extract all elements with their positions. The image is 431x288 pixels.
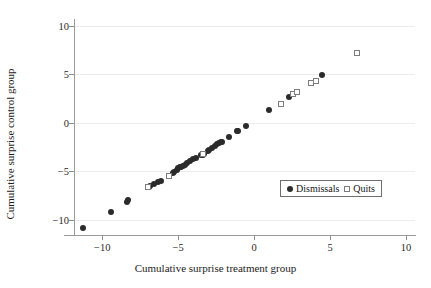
chart-figure: −10−50510 −10−50510 Cumulative surprise … bbox=[0, 0, 431, 288]
data-point-quit bbox=[145, 184, 151, 190]
legend-entry-dismissals: Dismissals bbox=[287, 183, 339, 194]
legend-entry-quits: Quits bbox=[344, 183, 375, 194]
x-axis-tick-label: −10 bbox=[94, 242, 110, 253]
y-axis-tick-label: −10 bbox=[53, 214, 69, 225]
data-point-dismissal bbox=[219, 139, 225, 145]
y-axis-tick-label: 10 bbox=[59, 20, 70, 31]
y-axis-tick bbox=[69, 123, 74, 124]
data-point-quit bbox=[294, 89, 300, 95]
y-axis-tick bbox=[69, 171, 74, 172]
x-axis: −10−50510 bbox=[64, 235, 416, 236]
data-point-quit bbox=[278, 101, 284, 107]
x-axis-tick bbox=[406, 235, 407, 240]
data-point-dismissal bbox=[80, 225, 86, 231]
x-axis-tick-label: 10 bbox=[401, 242, 412, 253]
data-point-dismissal bbox=[319, 72, 325, 78]
data-point-dismissal bbox=[226, 134, 232, 140]
y-axis-tick bbox=[69, 74, 74, 75]
x-axis-tick-label: 5 bbox=[327, 242, 332, 253]
data-point-dismissal bbox=[158, 178, 164, 184]
y-axis-title: Cumulative surprise control group bbox=[4, 68, 16, 219]
y-axis-tick-label: 5 bbox=[64, 69, 69, 80]
chart-legend: Dismissals Quits bbox=[280, 180, 382, 197]
open-square-icon bbox=[344, 186, 350, 192]
gridline bbox=[75, 74, 415, 75]
legend-label-quits: Quits bbox=[353, 183, 375, 194]
gridline bbox=[75, 26, 415, 27]
y-axis-tick-label: 0 bbox=[64, 117, 69, 128]
data-point-dismissal bbox=[266, 107, 272, 113]
gridline bbox=[75, 220, 415, 221]
gridline bbox=[75, 171, 415, 172]
plot-area bbox=[75, 20, 415, 235]
x-axis-title: Cumulative surprise treatment group bbox=[0, 262, 431, 274]
x-axis-tick bbox=[254, 235, 255, 240]
data-point-dismissal bbox=[235, 128, 241, 134]
y-axis-tick bbox=[69, 26, 74, 27]
y-axis-tick bbox=[69, 220, 74, 221]
legend-label-dismissals: Dismissals bbox=[296, 183, 339, 194]
data-point-quit bbox=[354, 50, 360, 56]
data-point-quit bbox=[313, 78, 319, 84]
data-point-dismissal bbox=[243, 123, 249, 129]
x-axis-tick-label: 0 bbox=[251, 242, 256, 253]
x-axis-tick bbox=[102, 235, 103, 240]
x-axis-tick-label: −5 bbox=[173, 242, 184, 253]
x-axis-tick bbox=[330, 235, 331, 240]
data-point-quit bbox=[200, 151, 206, 157]
y-axis-tick-label: −5 bbox=[58, 166, 69, 177]
data-point-dismissal bbox=[125, 197, 131, 203]
y-axis: −10−50510 bbox=[74, 19, 75, 236]
x-axis-tick bbox=[178, 235, 179, 240]
data-point-quit bbox=[166, 173, 172, 179]
data-point-dismissal bbox=[108, 209, 114, 215]
filled-circle-icon bbox=[287, 186, 293, 192]
